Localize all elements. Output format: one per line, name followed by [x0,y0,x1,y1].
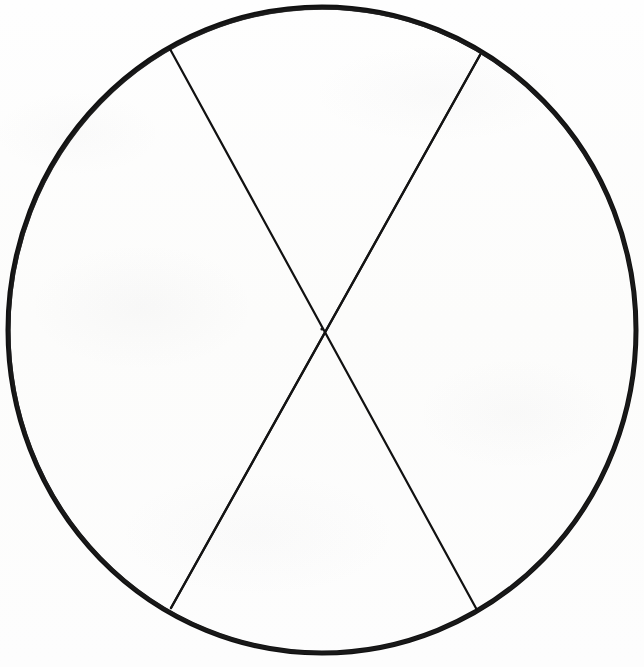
sector-5 [8,49,322,330]
sector-divider-group [170,49,480,610]
sector-2 [322,328,636,610]
sector-1 [322,55,636,330]
sector-3 [171,330,477,650]
center-point [320,327,323,330]
circle-sectors-figure [0,0,644,667]
page-canvas [0,0,644,667]
sector-divider-diagonal-right [171,55,480,608]
sector-6 [170,10,480,330]
sector-4 [8,328,322,608]
